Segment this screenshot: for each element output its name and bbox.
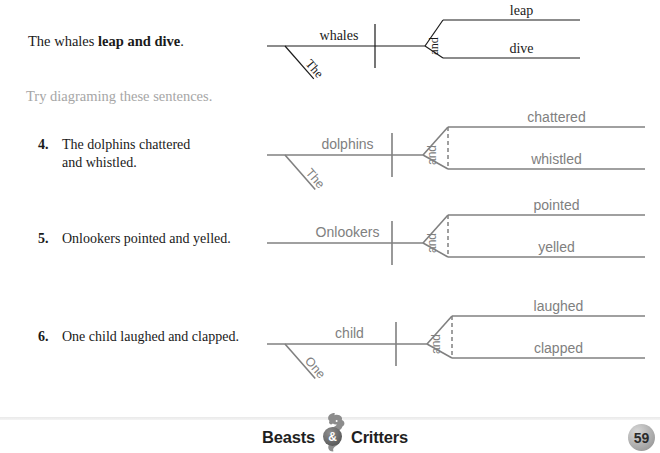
- exercise-text: Onlookers pointed and yelled.: [62, 230, 231, 248]
- svg-text:The: The: [303, 166, 328, 191]
- example-sentence-prefix: The whales: [28, 33, 98, 49]
- svg-text:and: and: [429, 334, 443, 354]
- page-number-badge: 59: [628, 424, 655, 451]
- svg-text:whales: whales: [320, 28, 359, 43]
- exercise-number: 5.: [38, 230, 58, 248]
- exercise-text: One child laughed and clapped.: [62, 328, 239, 346]
- svg-text:and: and: [425, 145, 439, 165]
- sentence-diagram-example: andwhalesTheleapdive: [267, 3, 580, 81]
- svg-text:child: child: [335, 325, 364, 341]
- svg-text:whistled: whistled: [530, 151, 582, 167]
- exercise-number: 4.: [38, 136, 58, 154]
- svg-text:leap: leap: [510, 3, 533, 18]
- svg-text:One: One: [302, 354, 328, 381]
- seahorse-icon: &: [318, 422, 348, 452]
- svg-text:yelled: yelled: [538, 239, 575, 255]
- footer-logo-critters: Critters: [351, 428, 408, 447]
- exercise-number: 6.: [38, 328, 58, 346]
- svg-text:and: and: [427, 37, 441, 54]
- sentence-diagram-exercise-6: andchildOnelaughedclapped: [267, 298, 645, 381]
- exercise-item-6: 6. One child laughed and clapped.: [38, 328, 239, 346]
- example-sentence-suffix: .: [180, 33, 184, 49]
- svg-text:dive: dive: [509, 41, 533, 56]
- svg-text:pointed: pointed: [534, 197, 580, 213]
- instruction-text: Try diagraming these sentences.: [26, 88, 212, 105]
- svg-text:chattered: chattered: [527, 109, 585, 125]
- example-sentence-bold: leap and dive: [98, 33, 180, 49]
- svg-text:dolphins: dolphins: [321, 136, 373, 152]
- example-sentence: The whales leap and dive.: [28, 33, 184, 50]
- svg-text:and: and: [425, 233, 439, 253]
- svg-text:clapped: clapped: [534, 340, 583, 356]
- exercise-item-5: 5. Onlookers pointed and yelled.: [38, 230, 231, 248]
- footer-logo-beasts: Beasts: [262, 428, 315, 447]
- sentence-diagram-exercise-5: andOnlookerspointedyelled: [267, 197, 645, 265]
- sentence-diagram-exercise-4: anddolphinsThechatteredwhistled: [267, 109, 645, 191]
- ampersand-badge: &: [323, 427, 342, 446]
- exercise-text: The dolphins chattered and whistled.: [62, 136, 190, 172]
- svg-text:The: The: [303, 57, 327, 81]
- svg-text:Onlookers: Onlookers: [316, 224, 380, 240]
- footer-logo: Beasts & Critters: [262, 424, 408, 450]
- svg-text:laughed: laughed: [534, 298, 584, 314]
- exercise-item-4: 4. The dolphins chattered and whistled.: [38, 136, 190, 172]
